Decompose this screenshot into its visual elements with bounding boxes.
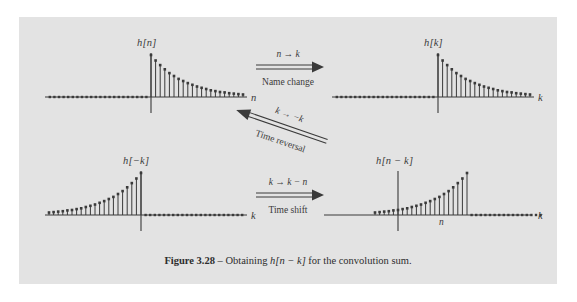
arrow-time-shift-top-label: k → k − n: [238, 177, 338, 187]
plot-h-of-n-canvas: [29, 39, 259, 114]
stem-series: [336, 54, 532, 98]
arrow-time-shift-bottom-label: Time shift: [238, 205, 338, 215]
plot-h-of-minus-k: h[−k] k: [29, 157, 259, 232]
plot-h-of-n-minus-k-canvas: [316, 157, 551, 232]
arrow-time-shift-glyph: [238, 189, 338, 201]
caption-figure-number: Figure 3.28: [164, 255, 215, 266]
caption-rest: for the convolution sum.: [306, 255, 412, 266]
figure-caption: Figure 3.28 – Obtaining h[n − k] for the…: [19, 255, 557, 266]
figure-panel: h[n] n h[k] k h[−k] k: [19, 17, 557, 284]
axis-label-k-top: k: [538, 92, 543, 103]
arrow-name-change: n → k Name change: [238, 49, 338, 87]
arrow-time-shift: k → k − n Time shift: [238, 177, 338, 215]
tick-label-n: n: [439, 217, 444, 227]
plot-h-of-k-canvas: [316, 39, 546, 114]
stem-series: [374, 172, 542, 217]
plot-title-h-of-n: h[n]: [137, 37, 156, 48]
plot-title-h-of-k: h[k]: [424, 37, 443, 48]
axis-label-k-bottom-right: k: [538, 210, 543, 221]
plot-h-of-k: h[k] k: [316, 39, 546, 114]
arrow-name-change-bottom-label: Name change: [238, 77, 338, 87]
caption-dash: – Obtaining: [215, 255, 270, 266]
stem-series: [49, 54, 245, 98]
plot-h-of-n-minus-k: h[n − k] k n: [316, 157, 551, 232]
plot-title-h-of-minus-k: h[−k]: [123, 155, 149, 166]
caption-math: h[n − k]: [270, 255, 306, 266]
arrow-name-change-top-label: n → k: [238, 49, 338, 59]
plot-h-of-n: h[n] n: [29, 39, 259, 114]
arrow-name-change-glyph: [238, 61, 338, 73]
stem-series: [48, 172, 244, 217]
plot-title-h-of-n-minus-k: h[n − k]: [376, 155, 413, 166]
plot-h-of-minus-k-canvas: [29, 157, 259, 232]
